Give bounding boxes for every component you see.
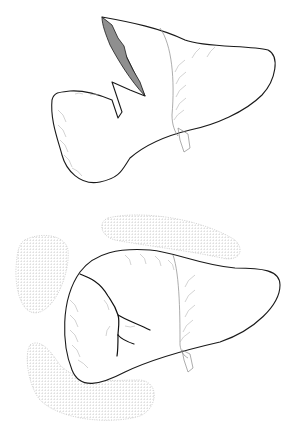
- bottom-ligament-tab: [182, 350, 193, 372]
- top-liver-figure: [52, 17, 275, 183]
- bottom-liver-outline: [65, 250, 280, 384]
- top-liver-outline: [52, 17, 275, 183]
- liver-illustration: [0, 0, 299, 435]
- bottom-liver-figure: [16, 215, 280, 420]
- packing-left: [16, 235, 68, 312]
